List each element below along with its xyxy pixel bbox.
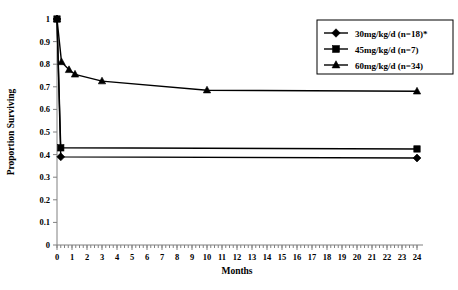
legend: 30mg/kg/d (n=18)*45mg/kg/d (n=7)60mg/kg/… — [317, 20, 453, 74]
x-tick-label: 18 — [323, 252, 332, 262]
marker-diamond — [57, 153, 65, 161]
x-tick-label: 2 — [85, 252, 89, 262]
x-tick-label: 21 — [368, 252, 377, 262]
chart-canvas: 00.10.20.30.40.50.60.70.80.9101234567891… — [0, 0, 458, 290]
y-axis-title: Proportion Surviving — [6, 88, 16, 175]
y-tick-label: 0.7 — [39, 82, 50, 92]
x-tick-label: 15 — [278, 252, 287, 262]
marker-square — [414, 146, 420, 152]
y-tick-label: 0.5 — [39, 127, 50, 137]
x-tick-label: 13 — [248, 252, 257, 262]
x-tick-label: 20 — [353, 252, 362, 262]
y-tick-label: 0.9 — [39, 37, 50, 47]
x-tick-label: 17 — [308, 252, 317, 262]
y-tick-label: 0.8 — [39, 59, 50, 69]
x-tick-label: 6 — [145, 252, 149, 262]
y-tick-label: 0 — [46, 240, 50, 250]
y-tick-label: 0.2 — [39, 195, 50, 205]
x-tick-label: 4 — [115, 252, 120, 262]
x-tick-label: 24 — [413, 252, 422, 262]
x-tick-label: 19 — [338, 252, 347, 262]
legend-label-1: 45mg/kg/d (n=7) — [355, 45, 418, 55]
x-tick-label: 9 — [190, 252, 194, 262]
legend-label-0: 30mg/kg/d (n=18)* — [355, 29, 428, 39]
marker-square — [58, 145, 64, 151]
y-tick-label: 0.1 — [39, 217, 50, 227]
x-tick-label: 16 — [293, 252, 302, 262]
y-tick-label: 0.3 — [39, 172, 50, 182]
x-axis-title: Months — [221, 266, 252, 276]
x-tick-label: 8 — [175, 252, 179, 262]
x-tick-label: 10 — [203, 252, 212, 262]
y-tick-label: 1 — [46, 14, 50, 24]
x-tick-label: 3 — [100, 252, 104, 262]
x-tick-label: 12 — [233, 252, 242, 262]
y-tick-label: 0.6 — [39, 104, 50, 114]
x-tick-label: 5 — [130, 252, 134, 262]
x-tick-label: 11 — [218, 252, 226, 262]
marker-square — [333, 46, 340, 53]
x-tick-label: 14 — [263, 252, 272, 262]
survival-chart: 00.10.20.30.40.50.60.70.80.9101234567891… — [0, 0, 458, 290]
x-tick-label: 7 — [160, 252, 165, 262]
x-tick-label: 0 — [55, 252, 59, 262]
x-tick-label: 1 — [70, 252, 74, 262]
x-tick-label: 23 — [398, 252, 407, 262]
legend-label-2: 60mg/kg/d (n=34) — [355, 61, 423, 71]
marker-diamond — [413, 154, 421, 162]
y-tick-label: 0.4 — [39, 150, 50, 160]
marker-triangle — [71, 70, 78, 77]
x-tick-label: 22 — [383, 252, 392, 262]
